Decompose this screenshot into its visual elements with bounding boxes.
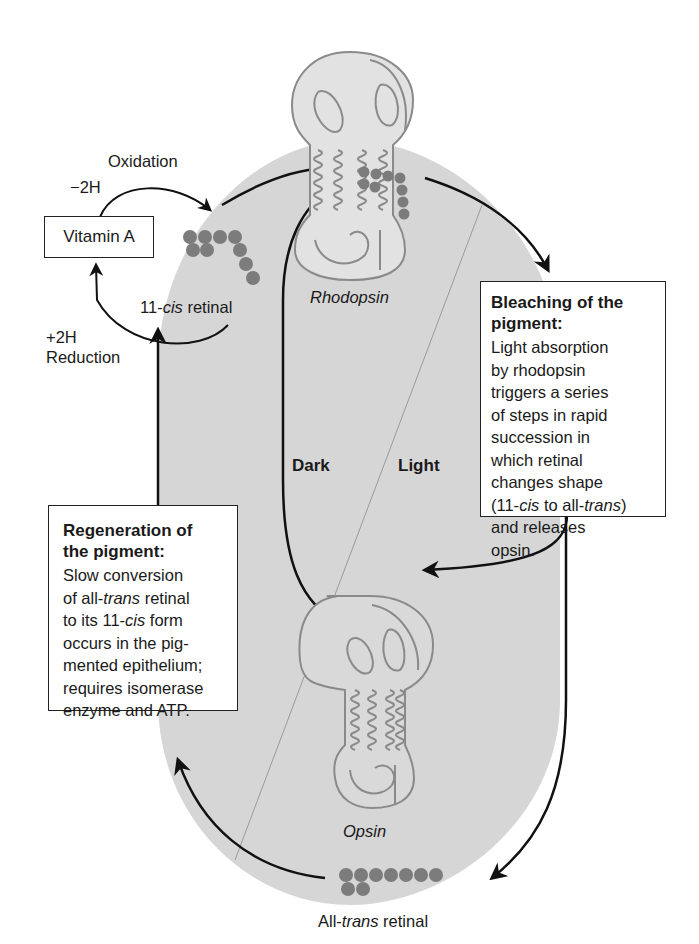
oxidation-h-label: −2H xyxy=(70,178,101,197)
vitamin-a-label: Vitamin A xyxy=(63,227,135,247)
text-fragment: to its 11- xyxy=(63,611,125,629)
text-fragment: ) xyxy=(621,496,627,514)
regeneration-line: requires isomerase xyxy=(63,677,237,700)
bleaching-line: and releases xyxy=(491,516,665,539)
oxidation-label: Oxidation xyxy=(108,152,178,171)
text-fragment: cis xyxy=(125,611,145,629)
regeneration-body: Slow conversion of all-trans retinal to … xyxy=(63,564,237,722)
regeneration-line: Slow conversion xyxy=(63,564,237,587)
bleaching-line: opsin. xyxy=(491,539,665,562)
cis-retinal-prefix: 11- xyxy=(140,298,163,316)
regeneration-box: Regeneration of the pigment: Slow conver… xyxy=(48,505,238,711)
regeneration-line: enzyme and ATP. xyxy=(63,699,237,722)
regeneration-title-line: the pigment: xyxy=(63,541,237,562)
bleaching-line: of steps in rapid xyxy=(491,404,665,427)
regeneration-line: mented epithelium; xyxy=(63,654,237,677)
bleaching-line: which retinal xyxy=(491,449,665,472)
bleaching-body: Light absorption by rhodopsin triggers a… xyxy=(491,336,665,561)
trans-retinal-italic: trans xyxy=(342,912,379,930)
bleaching-line: Light absorption xyxy=(491,336,665,359)
text-fragment: retinal xyxy=(140,589,190,607)
text-fragment: trans xyxy=(103,589,140,607)
text-fragment: cis xyxy=(519,496,539,514)
text-fragment: trans xyxy=(584,496,621,514)
bleaching-line: changes shape xyxy=(491,471,665,494)
bleaching-line: (11-cis to all-trans) xyxy=(491,494,665,517)
bleaching-title-line: pigment: xyxy=(491,313,665,334)
text-fragment: to all- xyxy=(539,496,584,514)
text-fragment: of all- xyxy=(63,589,103,607)
dark-zone-label: Dark xyxy=(292,456,330,475)
cis-retinal-italic: cis xyxy=(163,298,183,316)
reduction-label: Reduction xyxy=(46,348,120,367)
bleaching-box: Bleaching of the pigment: Light absorpti… xyxy=(480,281,666,517)
trans-retinal-label: All-trans retinal xyxy=(318,912,428,931)
opsin-label: Opsin xyxy=(343,822,386,841)
regeneration-line: to its 11-cis form xyxy=(63,609,237,632)
bleaching-line: succession in xyxy=(491,426,665,449)
trans-retinal-prefix: All- xyxy=(318,912,342,930)
trans-retinal-suffix: retinal xyxy=(379,912,429,930)
bleaching-title: Bleaching of the pigment: xyxy=(491,292,665,334)
regeneration-line: of all-trans retinal xyxy=(63,587,237,610)
light-zone-label: Light xyxy=(398,456,440,475)
vitamin-a-box: Vitamin A xyxy=(44,216,154,258)
regeneration-title-line: Regeneration of xyxy=(63,520,237,541)
rhodopsin-label: Rhodopsin xyxy=(310,288,389,307)
regeneration-line: occurs in the pig- xyxy=(63,632,237,655)
bleaching-title-line: Bleaching of the xyxy=(491,292,665,313)
bleaching-line: triggers a series xyxy=(491,381,665,404)
cis-retinal-suffix: retinal xyxy=(183,298,233,316)
cis-retinal-label: 11-cis retinal xyxy=(140,298,232,317)
regeneration-title: Regeneration of the pigment: xyxy=(63,520,237,562)
text-fragment: (11- xyxy=(491,496,519,514)
bleaching-line: by rhodopsin xyxy=(491,359,665,382)
arrow-oxidation xyxy=(100,188,210,217)
text-fragment: form xyxy=(145,611,183,629)
reduction-h-label: +2H xyxy=(46,328,77,347)
